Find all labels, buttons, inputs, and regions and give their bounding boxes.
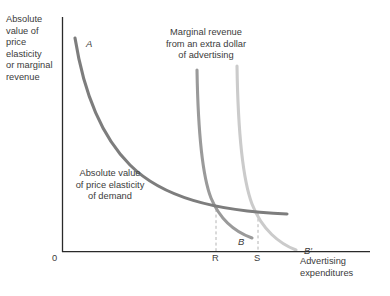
- marginal-revenue-annotation: Marginal revenue from an extra dollar of…: [150, 27, 262, 62]
- y-axis-label: Absolute value of price elasticity or ma…: [6, 14, 62, 84]
- curve-label-a: A: [86, 38, 92, 49]
- x-tick-label-r: R: [212, 253, 219, 263]
- chart-container: Absolute value of price elasticity or ma…: [0, 0, 390, 296]
- curve-b-prime: [237, 66, 296, 250]
- origin-label: 0: [52, 253, 57, 263]
- curve-label-b: B: [238, 236, 244, 247]
- x-axis-label: Advertising expenditures: [300, 256, 386, 279]
- x-tick-label-s: S: [254, 253, 260, 263]
- curve-label-b-prime: B′: [304, 245, 312, 256]
- curve-b: [197, 70, 252, 238]
- price-elasticity-annotation: Absolute value of price elasticity of de…: [56, 168, 164, 203]
